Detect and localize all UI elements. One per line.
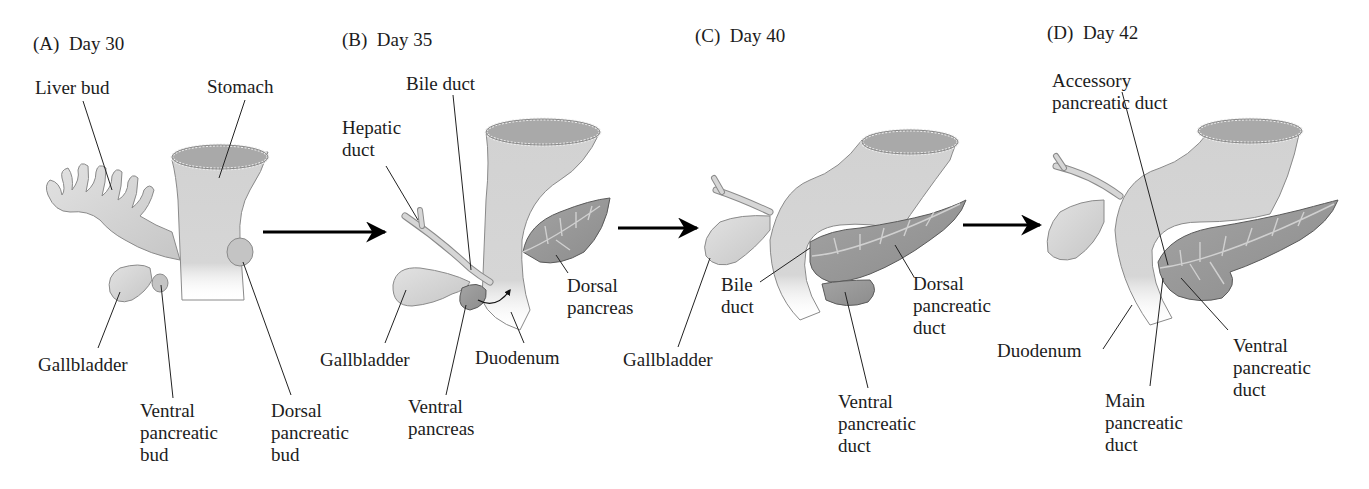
- label-accessory-pancreatic-duct: Accessory pancreatic duct: [1052, 70, 1168, 114]
- label-liver-bud: Liver bud: [35, 77, 109, 99]
- pancreas-development-diagram: (A) Day 30 (B) Day 35 (C) Day 40 (D) Day…: [0, 0, 1369, 489]
- label-bile-duct-b: Bile duct: [406, 73, 475, 95]
- label-ventral-pancreatic-duct-c: Ventral pancreatic duct: [838, 391, 916, 457]
- panel-b-title: (B) Day 35: [342, 29, 432, 51]
- panel-d-title: (D) Day 42: [1047, 22, 1138, 44]
- label-gallbladder-c: Gallbladder: [623, 349, 713, 371]
- panel-d-artwork: [1047, 119, 1338, 325]
- label-main-pancreatic-duct: Main pancreatic duct: [1105, 390, 1183, 456]
- label-hepatic-duct: Hepatic duct: [342, 117, 401, 161]
- panel-a-artwork: [46, 145, 268, 302]
- label-duodenum-d: Duodenum: [997, 340, 1081, 362]
- label-dorsal-pancreatic-bud: Dorsal pancreatic bud: [271, 400, 349, 466]
- panel-c-title: (C) Day 40: [695, 25, 785, 47]
- label-gallbladder-a: Gallbladder: [38, 354, 128, 376]
- label-ventral-pancreatic-duct-d: Ventral pancreatic duct: [1233, 335, 1311, 401]
- label-dorsal-pancreas: Dorsal pancreas: [567, 275, 633, 319]
- label-bile-duct-c: Bile duct: [721, 274, 754, 318]
- label-duodenum-b: Duodenum: [475, 347, 559, 369]
- label-dorsal-pancreatic-duct: Dorsal pancreatic duct: [913, 273, 991, 339]
- label-ventral-pancreatic-bud: Ventral pancreatic bud: [140, 400, 218, 466]
- label-ventral-pancreas: Ventral pancreas: [408, 396, 474, 440]
- label-stomach: Stomach: [207, 76, 274, 98]
- panel-a-title: (A) Day 30: [33, 33, 124, 55]
- label-gallbladder-b: Gallbladder: [320, 349, 410, 371]
